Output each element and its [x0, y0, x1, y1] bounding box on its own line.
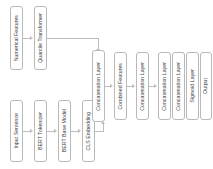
node-label: Concatenation Layer — [96, 62, 101, 111]
node-bert-base-model[interactable]: BERT Base Model — [58, 100, 71, 162]
node-label: Concatenation Layer — [176, 62, 181, 111]
node-concatenation-layer-4[interactable]: Concatenation Layer — [172, 52, 185, 120]
arrowhead-bert-to-cls — [78, 129, 81, 133]
node-label: Combined Features — [118, 63, 123, 109]
node-concatenation-layer-2[interactable]: Concatenation Layer — [136, 52, 149, 120]
node-combined-features[interactable]: Combined Features — [114, 52, 127, 120]
node-label: Numerical Features — [14, 15, 19, 61]
node-quantile-transformer[interactable]: Quantile Transformer — [34, 6, 47, 70]
arrowhead-input-to-tokenizer — [30, 129, 33, 133]
node-label: Sigmoid Layer — [190, 69, 195, 103]
arrowhead-concat2-to-concat3 — [154, 84, 157, 88]
node-concatenation-layer-3[interactable]: Concatenation Layer — [158, 52, 171, 120]
arrowhead-numerical-to-quantile — [30, 36, 33, 40]
edge-quantile-to-concat1-horizontal — [47, 38, 98, 39]
node-input-sentence[interactable]: Input Sentence — [10, 100, 23, 162]
arrowhead-concat1-to-combined — [110, 84, 113, 88]
node-numerical-features[interactable]: Numerical Features — [10, 6, 23, 70]
flowchart-diagram: Numerical Features Quantile Transformer … — [0, 0, 213, 169]
node-concatenation-layer-1[interactable]: Concatenation Layer — [92, 50, 105, 122]
node-label: BERT Base Model — [62, 109, 67, 152]
node-bert-tokenizer[interactable]: BERT Tokenizer — [34, 100, 47, 162]
arrowhead-combined-to-concat2 — [132, 84, 135, 88]
node-label: BERT Tokenizer — [38, 112, 43, 150]
node-sigmoid-layer[interactable]: Sigmoid Layer — [186, 52, 199, 120]
node-output[interactable]: Output — [200, 52, 212, 120]
node-label: Output — [203, 78, 208, 94]
node-label: CLS Embedding — [86, 112, 91, 150]
node-label: Concatenation Layer — [140, 62, 145, 111]
node-label: Quantile Transformer — [38, 13, 43, 63]
node-label: Input Sentence — [14, 113, 19, 149]
arrowhead-tokenizer-to-bert — [54, 129, 57, 133]
edge-cls-to-concat1-vertical — [103, 124, 104, 132]
node-label: Concatenation Layer — [162, 62, 167, 111]
